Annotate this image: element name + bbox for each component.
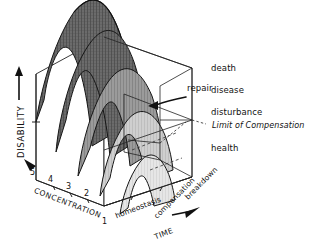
concentration-tick-2: 2 [84,189,89,198]
time-axis-arrow [172,207,200,218]
disability-axis-arrow [15,66,23,100]
figure-root: DISABILITY CONCENTRATION 5 4 3 2 1 homeo… [0,0,326,246]
zone-label-death: death [211,63,236,73]
concentration-tick-4: 4 [48,175,53,184]
zone-label-disease: disease [211,85,244,95]
zone-label-health: health [211,143,239,153]
limit-of-compensation-label: Limit of Compensation [212,121,304,130]
concentration-tick-5: 5 [30,168,35,177]
disability-axis-label: DISABILITY [16,106,26,158]
repair-label: repair [187,83,213,93]
zone-label-disturbance: disturbance [211,107,262,117]
concentration-tick-3: 3 [66,182,71,191]
concentration-tick-1: 1 [102,217,107,226]
